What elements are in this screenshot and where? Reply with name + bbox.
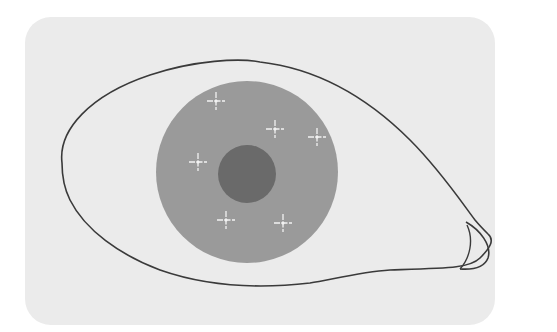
eye-diagram bbox=[0, 0, 557, 332]
pupil bbox=[218, 145, 276, 203]
